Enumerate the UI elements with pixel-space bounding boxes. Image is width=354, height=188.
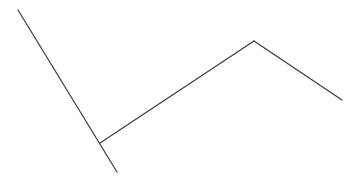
falling-line — [254, 41, 342, 100]
line-drawing-canvas — [0, 0, 354, 188]
rising-line — [100, 41, 254, 143]
line-drawing — [0, 0, 354, 188]
long-diagonal-line — [18, 10, 117, 172]
